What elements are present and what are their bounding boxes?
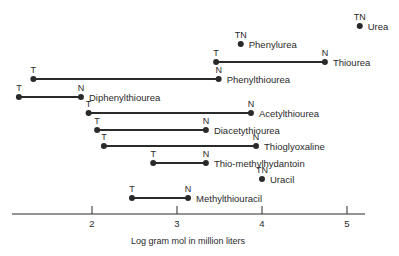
compound-label: Diacetythiourea: [214, 125, 281, 136]
x-tick-label: 5: [344, 218, 349, 229]
t-point: [16, 94, 22, 100]
compound-label: Uracil: [270, 174, 294, 185]
compound-label: Phenylurea: [249, 39, 298, 50]
t-point: [94, 127, 100, 133]
compound-label: Diphenylthiourea: [89, 92, 161, 103]
series-row: TNThio-methylhydantoin: [150, 149, 305, 169]
t-marker-label: T: [101, 132, 107, 142]
series-row: TNThiourea: [213, 48, 371, 68]
n-point: [253, 143, 259, 149]
n-marker-label: N: [253, 132, 260, 142]
t-marker-label: T: [86, 99, 92, 109]
compound-label: Phenylthiourea: [227, 74, 291, 85]
t-marker-label: T: [94, 116, 100, 126]
tn-point: [259, 176, 265, 182]
series-row: TNMethylthiouracil: [129, 184, 262, 204]
t-marker-label: T: [213, 48, 219, 58]
tn-marker-label: TN: [256, 165, 268, 175]
t-point: [30, 76, 36, 82]
n-marker-label: N: [185, 184, 192, 194]
tn-point: [357, 23, 363, 29]
series-row: TNUrea: [354, 12, 389, 32]
n-point: [322, 59, 328, 65]
n-point: [78, 94, 84, 100]
t-marker-label: T: [129, 184, 135, 194]
compound-label: Methylthiouracil: [196, 193, 262, 204]
tn-marker-label: TN: [235, 30, 247, 40]
t-point: [101, 143, 107, 149]
t-marker-label: T: [150, 149, 156, 159]
n-marker-label: N: [322, 48, 329, 58]
data-rows: TNUreaTNPhenylureaTNThioureaTNPhenylthio…: [16, 12, 389, 204]
n-point: [203, 160, 209, 166]
x-axis-label: Log gram mol in million liters: [131, 236, 246, 246]
n-marker-label: N: [203, 116, 210, 126]
compound-label: Urea: [368, 21, 389, 32]
t-point: [86, 110, 92, 116]
t-point: [150, 160, 156, 166]
x-axis: 2345: [12, 206, 365, 229]
series-row: TNPhenylthiourea: [30, 65, 290, 85]
n-marker-label: N: [203, 149, 210, 159]
n-point: [216, 76, 222, 82]
range-chart: TNUreaTNPhenylureaTNThioureaTNPhenylthio…: [0, 0, 399, 256]
n-point: [185, 195, 191, 201]
series-row: TNThioglyoxaline: [101, 132, 325, 152]
n-point: [203, 127, 209, 133]
compound-label: Acetylthiourea: [259, 108, 320, 119]
n-marker-label: N: [78, 83, 85, 93]
compound-label: Thiourea: [333, 57, 371, 68]
t-point: [129, 195, 135, 201]
tn-marker-label: TN: [354, 12, 366, 22]
t-marker-label: T: [16, 83, 22, 93]
x-tick-label: 4: [259, 218, 264, 229]
compound-label: Thioglyoxaline: [264, 141, 325, 152]
n-marker-label: N: [248, 99, 255, 109]
x-tick-label: 2: [89, 218, 94, 229]
n-point: [248, 110, 254, 116]
series-row: TNPhenylurea: [235, 30, 298, 50]
tn-point: [238, 41, 244, 47]
n-marker-label: N: [215, 65, 222, 75]
t-marker-label: T: [31, 65, 37, 75]
x-tick-label: 3: [174, 218, 179, 229]
